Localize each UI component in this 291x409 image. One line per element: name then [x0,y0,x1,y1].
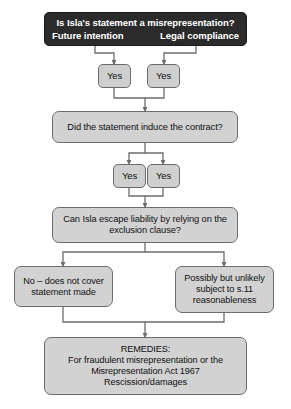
inducement-question-text: Did the statement induce the contract? [67,122,222,133]
remedies-heading: REMEDIES: [49,344,242,355]
remedies-line-3: Misrepresentation Act 1967 [49,366,242,377]
root-branch-left-label: Future intention [52,30,123,41]
remedies-line-2: For fraudulent misrepresentation or the [49,355,242,366]
outcome-no-line-1: No – does not cover [19,276,108,287]
exclusion-question-content: Can Isla escape liability by relying on … [53,214,237,236]
node-remedies: REMEDIES: For fraudulent misrepresentati… [44,337,247,395]
yes-label: Yes [156,170,171,181]
node-outcome-possibly-unlikely: Possibly but unlikely subject to s.11 re… [175,266,274,313]
root-branch-right-label: Legal compliance [160,30,239,41]
outcome-possibly-line-3: reasonableness [180,295,269,306]
exclusion-question-line-1: Can Isla escape liability by relying on … [57,214,233,225]
node-yes-inducement-left: Yes [113,164,146,188]
exclusion-question-line-2: exclusion clause? [57,225,233,236]
outcome-possibly-content: Possibly but unlikely subject to s.11 re… [176,273,273,306]
root-question-content: Is Isla's statement a misrepresentation?… [45,17,246,41]
node-inducement-question: Did the statement induce the contract? [52,111,238,143]
outcome-possibly-line-2: subject to s.11 [180,284,269,295]
node-yes-future-intention: Yes [98,64,131,88]
yes-label: Yes [156,70,171,81]
root-question-branches: Future intention Legal compliance [49,30,242,41]
yes-label: Yes [107,70,122,81]
node-yes-inducement-right: Yes [147,164,180,188]
remedies-line-4: Rescission/damages [49,377,242,388]
root-question-text: Is Isla's statement a misrepresentation? [49,17,242,28]
outcome-no-content: No – does not cover statement made [15,276,112,298]
node-yes-legal-compliance: Yes [147,64,180,88]
node-exclusion-clause-question: Can Isla escape liability by relying on … [52,207,238,243]
node-outcome-no-cover: No – does not cover statement made [14,266,113,307]
node-root-question: Is Isla's statement a misrepresentation?… [44,12,247,46]
yes-label: Yes [122,170,137,181]
remedies-content: REMEDIES: For fraudulent misrepresentati… [45,344,246,387]
outcome-no-line-2: statement made [19,287,108,298]
outcome-possibly-line-1: Possibly but unlikely [180,273,269,284]
flowchart-diagram: Is Isla's statement a misrepresentation?… [0,0,291,409]
